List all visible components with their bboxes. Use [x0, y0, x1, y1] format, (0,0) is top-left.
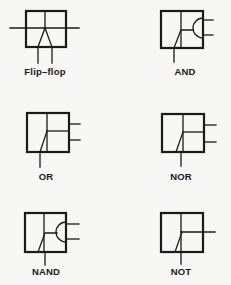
or-symbol — [27, 113, 80, 167]
or-label: OR — [6, 171, 86, 182]
flip-flop-symbol — [10, 11, 79, 63]
nand-symbol — [25, 213, 79, 265]
and-label: AND — [145, 66, 225, 77]
nand-label: NAND — [6, 266, 86, 277]
not-symbol — [161, 213, 215, 264]
nor-label: NOR — [141, 171, 221, 182]
nor-symbol — [162, 114, 216, 166]
not-label: NOT — [141, 266, 221, 277]
and-symbol — [161, 11, 213, 62]
logic-symbols-diagram — [0, 0, 231, 285]
flip-flop-label: Flip–flop — [5, 66, 85, 77]
